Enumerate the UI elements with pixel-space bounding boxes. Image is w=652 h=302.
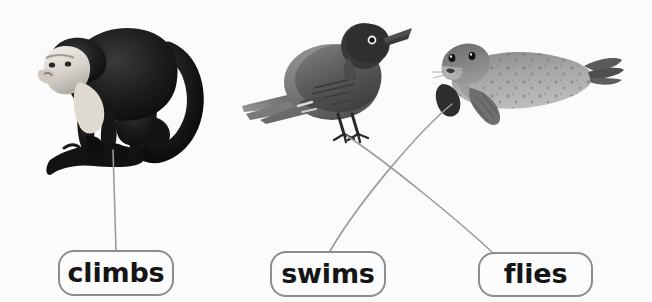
connector-bird-to-flies — [347, 136, 492, 252]
label-flies[interactable]: flies — [478, 252, 593, 297]
label-climbs-text: climbs — [68, 259, 165, 288]
matching-activity-canvas: climbs swims flies — [0, 0, 652, 302]
label-climbs[interactable]: climbs — [58, 250, 174, 296]
seal-photo[interactable] — [424, 22, 626, 132]
label-flies-text: flies — [504, 260, 568, 289]
robin-photo[interactable] — [240, 10, 416, 150]
capuchin-monkey-photo[interactable] — [20, 8, 212, 182]
label-swims[interactable]: swims — [270, 251, 386, 297]
label-swims-text: swims — [281, 260, 374, 289]
